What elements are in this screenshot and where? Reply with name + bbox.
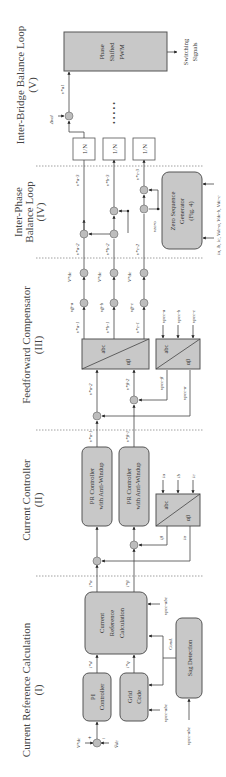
svg-text:vpcc-b: vpcc-b — [176, 309, 181, 323]
svg-text:Current: Current — [98, 613, 105, 633]
section-title-4: Inter-Phase Balance Loop (IV) — [12, 181, 47, 243]
svg-text:v*c-3: v*c-3 — [135, 168, 140, 180]
svg-text:v*a-1: v*a-1 — [75, 322, 80, 333]
svg-text:(IV): (IV) — [34, 202, 47, 221]
svg-text:αβ: αβ — [124, 358, 131, 365]
svg-text:vpcc-β: vpcc-β — [159, 376, 164, 390]
phase-shifted-pwm-block — [64, 32, 167, 71]
svg-text:v*β-1: v*β-1 — [125, 431, 130, 442]
svg-text:ia: ia — [161, 474, 166, 478]
svg-text:• • • • •: • • • • • — [110, 102, 119, 124]
svg-text:Phase: Phase — [98, 44, 105, 59]
svg-text:v*c-2: v*c-2 — [135, 243, 140, 255]
svg-text:Inter-Bridge Balance Loop: Inter-Bridge Balance Loop — [14, 25, 26, 144]
svg-text:Cond.: Cond. — [168, 638, 173, 650]
sum-beta-error — [130, 541, 138, 549]
svg-text:V*dc: V*dc — [127, 271, 132, 282]
node-phase-c — [140, 205, 148, 213]
svg-text:PI: PI — [89, 694, 96, 700]
svg-text:ia, ib, ic, Vdc-a, Vdc-b, Vdc-: ia, ib, ic, Vdc-a, Vdc-b, Vdc-c — [216, 195, 222, 255]
node-phase-b — [110, 230, 118, 238]
svg-text:with Anti-Windup: with Anti-Windup — [97, 462, 104, 509]
svg-text:PR Controller: PR Controller — [125, 467, 132, 504]
svg-text:Grid: Grid — [126, 690, 133, 703]
sum-vdc — [93, 739, 101, 747]
svg-text:Code: Code — [135, 690, 142, 704]
svg-text:Sag Detection: Sag Detection — [186, 639, 193, 676]
sum-phase-a-balance — [80, 230, 88, 238]
sum-phase-b-balance — [110, 207, 118, 215]
svg-text:vpcc-abc: vpcc-abc — [186, 726, 191, 745]
svg-text:(III): (III) — [32, 336, 45, 355]
svg-text:vff-c: vff-c — [129, 302, 134, 312]
svg-text:v*b-2: v*b-2 — [105, 243, 110, 255]
svg-text:v*c-1: v*c-1 — [135, 322, 140, 333]
svg-text:i*d: i*d — [88, 661, 93, 668]
svg-text:i*q: i*q — [125, 661, 130, 668]
label-vdc-ref: V*dc — [76, 737, 81, 748]
svg-text:vpcc-a: vpcc-a — [161, 309, 166, 323]
svg-text:Current Reference Calculation: Current Reference Calculation — [20, 622, 32, 757]
svg-text:PWM: PWM — [118, 44, 125, 60]
svg-text:v*a1: v*a1 — [60, 84, 65, 94]
section-title-5: Inter-Bridge Balance Loop (V) — [14, 25, 39, 144]
svg-text:V*dc: V*dc — [97, 271, 102, 282]
svg-text:Signals: Signals — [191, 42, 198, 62]
pi-controller-block — [83, 673, 111, 721]
svg-text:1/N: 1/N — [141, 144, 148, 154]
section-title-3: Feedforward Compensator (III) — [20, 286, 45, 404]
svg-text:αβ: αβ — [184, 358, 191, 365]
svg-text:v*b-1: v*b-1 — [105, 322, 110, 333]
sum-phase-c-balance — [140, 186, 148, 194]
svg-text:Δvel: Δvel — [49, 115, 54, 125]
svg-text:vpcc-abc: vpcc-abc — [163, 596, 168, 615]
grid-code-block — [120, 673, 148, 721]
svg-text:with Anti-Windup: with Anti-Windup — [134, 462, 141, 509]
svg-text:ic: ic — [191, 474, 196, 478]
control-block-diagram: Current Reference Calculation (I) Curren… — [0, 0, 226, 777]
svg-text:v*β-2: v*β-2 — [125, 378, 130, 390]
svg-text:PR Controller: PR Controller — [88, 467, 95, 504]
svg-text:1/N: 1/N — [111, 144, 118, 154]
svg-text:Generator: Generator — [178, 197, 185, 224]
svg-text:Reference: Reference — [108, 610, 115, 636]
svg-text:vpcc-abc: vpcc-abc — [163, 703, 168, 722]
svg-text:αβ: αβ — [184, 514, 191, 521]
svg-text:vzero: vzero — [152, 221, 157, 232]
sum-inter-bridge — [65, 112, 73, 120]
svg-text:iα: iα — [182, 536, 187, 540]
svg-text:i*α: i*α — [88, 580, 93, 587]
phase-c-lane: v*c-1 vff-c V*dc v*c-2 — [127, 214, 148, 339]
svg-text:vff-a: vff-a — [69, 302, 74, 312]
svg-text:V*dc: V*dc — [67, 271, 72, 282]
divider-blocks: 1/N 1/N 1/N — [73, 138, 155, 160]
svg-text:abc: abc — [162, 344, 169, 353]
sum-beta-ff — [130, 396, 138, 404]
current-reference-calculation-block — [85, 592, 147, 654]
svg-text:abc: abc — [162, 500, 169, 509]
svg-text:vpcc-α: vpcc-α — [182, 386, 187, 400]
section-title-1: Current Reference Calculation (I) — [20, 622, 45, 757]
svg-text:1/N: 1/N — [81, 144, 88, 154]
section-title-2: Current Controller (II) — [20, 459, 45, 541]
svg-text:(I): (I) — [32, 684, 45, 695]
svg-text:Zero Sequence: Zero Sequence — [169, 191, 176, 230]
svg-text:Shifted: Shifted — [108, 42, 115, 62]
phase-b-lane: v*b-1 vff-b V*dc v*b-2 — [97, 239, 118, 339]
svg-text:v*a-3: v*a-3 — [75, 174, 80, 186]
svg-text:Controller: Controller — [98, 683, 105, 711]
svg-text:vpcc-c: vpcc-c — [191, 309, 196, 323]
svg-text:v*a-2: v*a-2 — [75, 243, 80, 255]
label-vdc: V̄dc — [114, 739, 119, 748]
svg-text:(V): (V) — [26, 77, 39, 93]
svg-text:i*β: i*β — [125, 580, 130, 587]
svg-text:abc: abc — [99, 344, 106, 353]
svg-text:(Fig. 4): (Fig. 4) — [187, 201, 195, 221]
svg-text:vff-b: vff-b — [99, 302, 104, 312]
svg-text:Switching: Switching — [182, 38, 189, 65]
svg-text:ib: ib — [176, 474, 181, 478]
svg-text:iβ: iβ — [159, 536, 164, 540]
svg-text:Feedforward Compensator: Feedforward Compensator — [20, 286, 32, 404]
svg-text:(II): (II) — [32, 492, 45, 507]
sum-alpha-error — [93, 557, 101, 565]
